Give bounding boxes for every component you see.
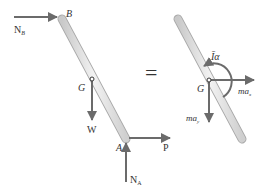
ma-x-label: max [238,86,252,97]
force-p-label: P [163,142,169,153]
center-of-mass-g [90,77,94,81]
free-body-diagram: NB B G W P A NA = Īα max may [0,0,268,194]
center-of-mass-g-right [207,78,211,82]
force-nb-label: NB [14,24,25,36]
moment-i-alpha-label: Īα [210,51,220,62]
equals-sign: = [145,60,157,85]
right-diagram: Īα max may G [178,19,254,139]
point-b-label: B [66,8,72,19]
left-diagram: NB B G W P A NA [14,8,170,186]
ma-y-label: may [186,113,200,124]
point-g-label: G [78,82,85,93]
point-a-label: A [115,142,123,153]
force-w-label: W [87,124,97,135]
point-g-right-label: G [197,83,204,94]
force-na-label: NA [130,174,142,186]
